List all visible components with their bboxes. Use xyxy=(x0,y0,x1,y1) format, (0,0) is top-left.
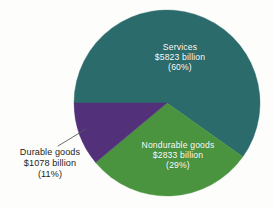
services-name: Services xyxy=(133,42,227,52)
durable-name: Durable goods xyxy=(2,147,98,158)
durable-percent: (11%) xyxy=(2,169,98,180)
nondurable-name: Nondurable goods xyxy=(122,140,234,150)
nondurable-value: $2833 billion xyxy=(122,150,234,160)
slice-label-durable: Durable goods $1078 billion (11%) xyxy=(2,147,98,180)
slice-label-services: Services $5823 billion (60%) xyxy=(133,42,227,72)
durable-value: $1078 billion xyxy=(2,158,98,169)
services-value: $5823 billion xyxy=(133,52,227,62)
services-percent: (60%) xyxy=(133,62,227,72)
nondurable-percent: (29%) xyxy=(122,160,234,170)
pie-chart-figure: Services $5823 billion (60%) Nondurable … xyxy=(0,0,274,207)
slice-label-nondurable: Nondurable goods $2833 billion (29%) xyxy=(122,140,234,170)
